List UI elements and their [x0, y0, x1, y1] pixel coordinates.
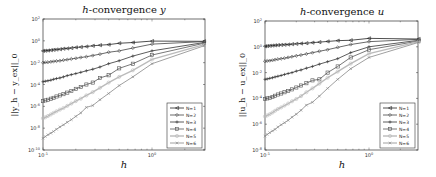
svg-text:N=1: N=1	[399, 106, 409, 111]
x-axis-label: h	[121, 159, 127, 170]
svg-text:N=2: N=2	[186, 113, 196, 118]
plot-area: 10210010-210-410-610-810-1100N=1N=2N=3N=…	[252, 18, 420, 158]
y-tick-label: 10-6	[252, 121, 262, 127]
x-tick-label: 100	[365, 152, 374, 158]
y-axis-label: ||u_h − u_ex||_0	[238, 53, 247, 117]
chart-title: h-convergence y	[82, 4, 166, 15]
x-axis-label: h	[339, 159, 345, 170]
svg-text:N=2: N=2	[399, 113, 409, 118]
svg-text:N=5: N=5	[399, 134, 409, 139]
y-tick-label: 10-8	[30, 125, 40, 131]
svg-text:N=5: N=5	[186, 134, 196, 139]
chart-title: h-convergence u	[300, 6, 384, 17]
chart-h-convergence-y: h-convergence y 10210010-210-410-610-810…	[0, 0, 218, 177]
legend: N=1N=2N=3N=4N=5N=6	[167, 103, 202, 148]
svg-text:N=4: N=4	[399, 127, 409, 132]
svg-text:N=3: N=3	[399, 120, 409, 125]
y-tick-label: 100	[253, 44, 262, 50]
svg-text:N=4: N=4	[186, 127, 196, 132]
svg-text:N=6: N=6	[186, 141, 196, 146]
plot-area: 10210010-210-410-610-810-1010-1100N=1N=2…	[28, 16, 206, 158]
y-tick-label: 10-4	[252, 95, 263, 101]
chart-svg-left: h-convergence y 10210010-210-410-610-810…	[0, 0, 218, 177]
y-tick-label: 100	[31, 38, 40, 44]
x-tick-label: 10-1	[38, 152, 48, 158]
chart-h-convergence-u: h-convergence u 10210010-210-410-610-810…	[218, 0, 436, 177]
svg-text:N=1: N=1	[186, 106, 196, 111]
y-tick-label: 10-2	[30, 60, 40, 66]
y-tick-label: 10-6	[30, 103, 40, 109]
y-tick-label: 102	[253, 18, 262, 24]
svg-text:N=3: N=3	[186, 120, 196, 125]
x-tick-label: 100	[148, 152, 157, 158]
legend: N=1N=2N=3N=4N=5N=6	[380, 103, 415, 148]
chart-svg-right: h-convergence u 10210010-210-410-610-810…	[218, 0, 436, 177]
y-axis-label: ||y_h − y_ex||_0	[10, 53, 19, 116]
y-tick-label: 10-2	[252, 70, 262, 76]
y-tick-label: 10-4	[30, 82, 41, 88]
y-tick-label: 102	[31, 16, 40, 22]
x-tick-label: 10-1	[260, 152, 270, 158]
svg-text:N=6: N=6	[399, 141, 409, 146]
